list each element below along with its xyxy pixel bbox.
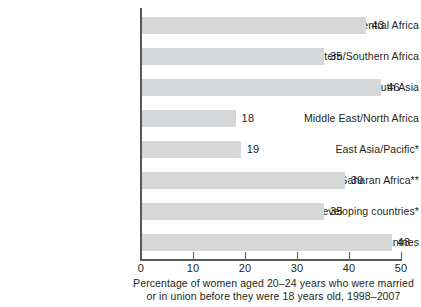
- bar: [142, 17, 366, 34]
- caption-line-2: or in union before they were 18 years ol…: [132, 290, 415, 303]
- bar-value-label: 43: [372, 17, 385, 34]
- bar-value-label: 39: [351, 172, 364, 189]
- x-axis-tick: [349, 252, 350, 260]
- bar-value-label: 18: [242, 110, 255, 127]
- bar-row: Developing countries*35: [0, 203, 419, 220]
- bar-row: Sub-Saharan Africa**39: [0, 172, 419, 189]
- bar-row: Eastern/Southern Africa35: [0, 48, 419, 65]
- x-axis-tick: [245, 252, 246, 260]
- bar: [142, 172, 345, 189]
- x-axis-tick: [297, 252, 298, 260]
- bar: [142, 141, 241, 158]
- bar-value-label: 48: [398, 234, 411, 251]
- x-axis-tick: [193, 252, 194, 260]
- bar-value-label: 46: [387, 79, 400, 96]
- bar-row: Middle East/North Africa18: [0, 110, 419, 127]
- x-axis-tick: [141, 252, 142, 260]
- x-axis-tick-label: 30: [277, 262, 317, 275]
- bar: [142, 79, 381, 96]
- bar-row: Least developed countries48: [0, 234, 419, 251]
- bar-value-label: 35: [330, 203, 343, 220]
- category-label: Middle East/North Africa: [285, 110, 419, 127]
- bar: [142, 234, 392, 251]
- bar: [142, 203, 324, 220]
- x-axis-tick-label: 20: [225, 262, 265, 275]
- bar-row: West/Central Africa43: [0, 17, 419, 34]
- bar: [142, 48, 324, 65]
- bar-row: South Asia46: [0, 79, 419, 96]
- category-label: East Asia/Pacific*: [285, 141, 419, 158]
- bar: [142, 110, 236, 127]
- x-axis-tick-label: 40: [329, 262, 369, 275]
- bar-value-label: 35: [330, 48, 343, 65]
- y-axis-line: [140, 8, 142, 260]
- x-axis-tick-label: 10: [173, 262, 213, 275]
- caption-line-1: Percentage of women aged 20–24 years who…: [132, 277, 415, 290]
- x-axis-line: [140, 259, 402, 261]
- bar-value-label: 19: [247, 141, 260, 158]
- x-axis-tick: [401, 252, 402, 260]
- bar-row: East Asia/Pacific*19: [0, 141, 419, 158]
- x-axis-caption: Percentage of women aged 20–24 years who…: [132, 277, 415, 303]
- x-axis-tick-label: 0: [121, 262, 161, 275]
- x-axis-tick-label: 50: [381, 262, 421, 275]
